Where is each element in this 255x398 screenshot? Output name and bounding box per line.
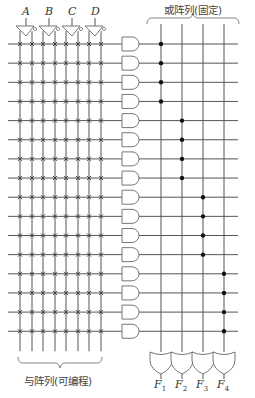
and-gate-icon [122,133,139,147]
fixed-connection-dot [159,61,163,65]
input-label-a: A [22,5,30,18]
fixed-connection-dot [159,42,163,46]
buffer-gate-icon [85,26,103,36]
inverter-bubble-icon [102,27,105,30]
fixed-connection-dot [201,214,205,218]
fixed-connection-dot [180,138,184,142]
or-gate-icon [213,352,235,374]
output-label-f1: F1 [154,378,166,393]
output-label-f3: F3 [196,378,208,393]
and-gate-icon [122,94,139,108]
fixed-connection-dot [222,272,226,276]
fixed-connection-dot [180,118,184,122]
buffer-gate-icon [39,26,57,36]
and-gate-icon [122,229,139,243]
fixed-connection-dot [222,310,226,314]
and-gate-icon [122,152,139,166]
fixed-connection-dot [222,291,226,295]
and-gate-icon [122,171,139,185]
fixed-connection-dot [180,157,184,161]
or-gate-icon [150,352,172,374]
input-label-c: C [68,5,76,18]
and-gate-icon [122,209,139,223]
and-gate-icon [122,305,139,319]
and-gate-icon [122,190,139,204]
or-gate-icon [171,352,193,374]
and-gate-icon [122,37,139,51]
buffer-gate-icon [62,26,80,36]
and-gate-icon [122,56,139,70]
input-label-d: D [91,5,100,18]
fixed-connection-dot [222,329,226,333]
inverter-bubble-icon [33,27,36,30]
fixed-connection-dot [201,195,205,199]
and-gate-icon [122,286,139,300]
input-label-b: B [45,5,53,18]
and-gate-icon [122,75,139,89]
output-label-f2: F2 [175,378,187,393]
fixed-connection-dot [159,80,163,84]
inverter-bubble-icon [56,27,59,30]
fixed-connection-dot [180,176,184,180]
buffer-gate-icon [16,26,34,36]
and-gate-icon [122,248,139,262]
inverter-bubble-icon [79,27,82,30]
or-gate-icon [192,352,214,374]
and-gate-icon [122,114,139,128]
and-array-label: 与阵列(可编程) [24,373,92,388]
and-gate-icon [122,267,139,281]
and-gate-icon [122,324,139,338]
output-label-f4: F4 [217,378,229,393]
fixed-connection-dot [201,252,205,256]
pal-diagram [0,0,255,398]
and-array-brace-icon [18,357,102,368]
fixed-connection-dot [201,233,205,237]
fixed-connection-dot [159,99,163,103]
or-array-label: 或阵列(固定) [164,2,222,17]
